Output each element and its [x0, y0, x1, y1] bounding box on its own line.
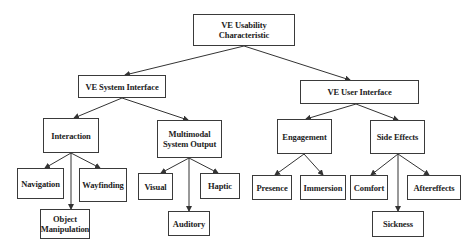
node-immersion: Immersion — [300, 175, 346, 200]
node-visual: Visual — [138, 173, 173, 200]
node-side-effects: Side Effects — [370, 120, 425, 154]
node-object-manipulation: Object Manipulation — [40, 209, 90, 239]
node-navigation: Navigation — [17, 168, 64, 199]
node-aftereffects: Aftereffects — [407, 175, 461, 200]
node-sickness: Sickness — [372, 211, 424, 237]
node-system-interface: VE System Interface — [78, 75, 166, 98]
node-user-interface: VE User Interface — [300, 80, 419, 104]
node-root: VE Usability Characteristic — [193, 14, 295, 46]
hierarchy-diagram: VE Usability Characteristic VE System In… — [0, 0, 473, 252]
node-presence: Presence — [252, 175, 292, 200]
node-engagement: Engagement — [277, 119, 332, 154]
node-haptic: Haptic — [200, 173, 240, 199]
node-wayfinding: Wayfinding — [79, 168, 127, 202]
node-auditory: Auditory — [168, 211, 210, 236]
node-interaction: Interaction — [43, 118, 99, 153]
node-comfort: Comfort — [350, 175, 388, 200]
node-multimodal-output: Multimodal System Output — [157, 120, 222, 158]
